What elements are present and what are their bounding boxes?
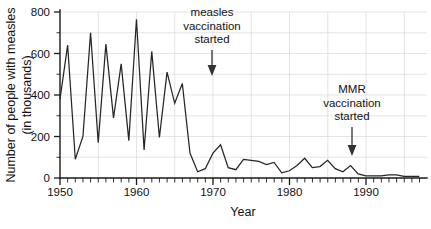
y-axis-major-ticks: [54, 12, 60, 178]
mmr-annotation-line3: started: [334, 110, 369, 122]
x-axis-tick-labels: 1950 1960 1970 1980 1990: [47, 186, 379, 198]
y-tick-label-800: 800: [31, 6, 50, 18]
measles-annotation-line2: vaccination: [183, 20, 241, 32]
x-tick-label-1990: 1990: [353, 186, 379, 198]
measles-incidence-chart: 0 200 400 600 800: [0, 0, 431, 229]
mmr-vaccination-annotation: MMR vaccination started: [323, 83, 381, 156]
measles-annotation-line3: started: [194, 33, 229, 45]
y-axis-title: Number of people with measles (in thousa…: [4, 7, 34, 182]
x-tick-label-1950: 1950: [47, 186, 73, 198]
x-tick-label-1960: 1960: [124, 186, 150, 198]
x-tick-label-1980: 1980: [277, 186, 303, 198]
x-tick-label-1970: 1970: [200, 186, 226, 198]
y-axis-title-line2: (in thousands): [20, 55, 34, 134]
y-axis-title-line1: Number of people with measles: [4, 7, 18, 182]
measles-vaccination-annotation: measles vaccination started: [183, 6, 241, 76]
x-axis-title: Year: [230, 205, 255, 219]
mmr-annotation-line2: vaccination: [323, 97, 381, 109]
measles-annotation-line1: measles: [191, 6, 234, 18]
mmr-annotation-line1: MMR: [338, 83, 365, 95]
y-tick-label-0: 0: [44, 172, 50, 184]
mmr-annotation-arrow-head: [348, 145, 357, 156]
chart-svg: 0 200 400 600 800: [0, 0, 431, 229]
horizontal-gridlines: [60, 12, 427, 157]
